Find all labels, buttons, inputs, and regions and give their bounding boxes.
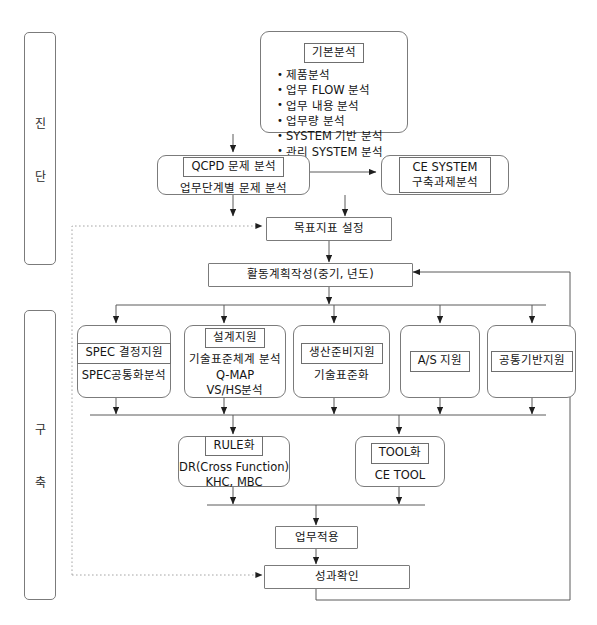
wire-result-feedback-to-plan [316, 272, 570, 600]
phase-build-char-1: 구 [35, 420, 46, 437]
ce-system-line-1: CE SYSTEM [412, 160, 478, 175]
flowchart-canvas: 진 단 구 축 기본분석 제품분석 업무 FLOW 분석 업무 내용 분석 업무… [0, 0, 597, 625]
design-caption-wrap: 설계지원 [205, 325, 265, 348]
production-subtext: 기술표준화 [314, 368, 369, 383]
tool-caption-wrap: TOOL화 [371, 440, 430, 463]
basic-analysis-bullet-list: 제품분석 업무 FLOW 분석 업무 내용 분석 업무량 분석 SYSTEM 기… [261, 68, 383, 160]
work-apply-label: 업무적용 [295, 530, 339, 545]
result-check-label: 성과확인 [315, 569, 359, 584]
activity-plan-label: 활동계획작성(중기, 년도) [247, 267, 373, 282]
node-ce-system[interactable]: CE SYSTEM 구축과제분석 [381, 155, 509, 195]
tool-caption: TOOL화 [371, 443, 430, 463]
goal-setting-label: 목표지표 설정 [294, 221, 364, 236]
list-item: 업무량 분석 [277, 114, 383, 129]
list-item: 업무 FLOW 분석 [277, 83, 383, 98]
list-item: 업무 내용 분석 [277, 99, 383, 114]
phase-rail-diagnosis: 진 단 [24, 32, 56, 265]
rule-caption-wrap: RULE화 [205, 433, 262, 456]
spec-caption: SPEC 결정지원 [77, 343, 170, 363]
qcpd-caption: QCPD 문제 분석 [183, 157, 283, 177]
node-design-support[interactable]: 설계지원 기술표준체계 분석 Q-MAP VS/HS분석 [184, 325, 286, 398]
phase-diagnosis-char-1: 진 [35, 114, 46, 131]
node-work-apply[interactable]: 업무적용 [275, 526, 358, 549]
basic-analysis-caption: 기본분석 [304, 43, 364, 63]
rule-line-2: KHC, MBC [205, 475, 262, 490]
list-item: 제품분석 [277, 68, 383, 83]
tool-line-1: CE TOOL [375, 468, 426, 483]
node-as-support[interactable]: A/S 지원 [400, 325, 480, 398]
phase-diagnosis-char-2: 단 [35, 167, 46, 184]
phase-rail-build: 구 축 [24, 310, 56, 600]
basic-analysis-caption-wrap: 기본분석 [304, 40, 364, 63]
list-item: SYSTEM 기반 분석 [277, 129, 383, 144]
node-tool[interactable]: TOOL화 CE TOOL [355, 436, 445, 487]
production-caption-wrap: 생산준비지원 [301, 340, 383, 363]
spec-subtext: SPEC공통화분석 [82, 368, 167, 383]
production-caption: 생산준비지원 [301, 343, 383, 363]
rule-caption: RULE화 [205, 436, 262, 456]
node-qcpd-problem-analysis[interactable]: QCPD 문제 분석 업무단계별 문제 분석 [157, 155, 310, 195]
qcpd-subtext: 업무단계별 문제 분석 [180, 181, 286, 196]
node-rule[interactable]: RULE화 DR(Cross Function) KHC, MBC [178, 436, 290, 487]
ce-system-line-2: 구축과제분석 [412, 175, 478, 190]
node-production-support[interactable]: 생산준비지원 기술표준화 [293, 325, 390, 398]
design-line-2: Q-MAP [216, 368, 254, 383]
spec-caption-wrap: SPEC 결정지원 [77, 340, 170, 363]
qcpd-caption-wrap: QCPD 문제 분석 [183, 154, 283, 177]
design-line-3: VS/HS분석 [207, 383, 264, 398]
ce-system-inner-box: CE SYSTEM 구축과제분석 [399, 157, 491, 194]
node-result-check[interactable]: 성과확인 [264, 565, 410, 589]
node-basic-analysis[interactable]: 기본분석 제품분석 업무 FLOW 분석 업무 내용 분석 업무량 분석 SYS… [260, 31, 408, 133]
rule-line-1: DR(Cross Function) [179, 460, 289, 475]
node-goal-setting[interactable]: 목표지표 설정 [266, 217, 392, 241]
node-common-base-support[interactable]: 공통기반지원 [487, 325, 576, 398]
design-caption: 설계지원 [205, 328, 265, 348]
design-line-1: 기술표준체계 분석 [189, 352, 281, 367]
common-base-caption: 공통기반지원 [491, 351, 573, 371]
phase-build-char-2: 축 [35, 473, 46, 490]
node-activity-plan[interactable]: 활동계획작성(중기, 년도) [208, 263, 413, 287]
node-spec-support[interactable]: SPEC 결정지원 SPEC공통화분석 [77, 325, 171, 398]
as-support-caption: A/S 지원 [410, 351, 471, 371]
